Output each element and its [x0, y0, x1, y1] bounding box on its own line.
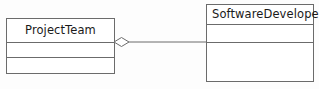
class-operations-compartment-software-developer	[207, 43, 313, 81]
class-name-compartment-project-team: ProjectTeam	[7, 19, 114, 43]
aggregation-connector-project-team-software-developer[interactable]	[114, 34, 207, 50]
class-box-software-developer[interactable]: SoftwareDeveloper	[206, 4, 314, 82]
class-operations-compartment-project-team	[7, 58, 114, 73]
class-name-compartment-software-developer: SoftwareDeveloper	[207, 5, 313, 25]
class-attributes-compartment-software-developer	[207, 25, 313, 43]
class-box-project-team[interactable]: ProjectTeam	[6, 18, 115, 74]
uml-class-diagram-canvas: ProjectTeam SoftwareDeveloper	[0, 0, 319, 89]
aggregation-diamond-icon	[114, 38, 129, 47]
class-attributes-compartment-project-team	[7, 43, 114, 58]
